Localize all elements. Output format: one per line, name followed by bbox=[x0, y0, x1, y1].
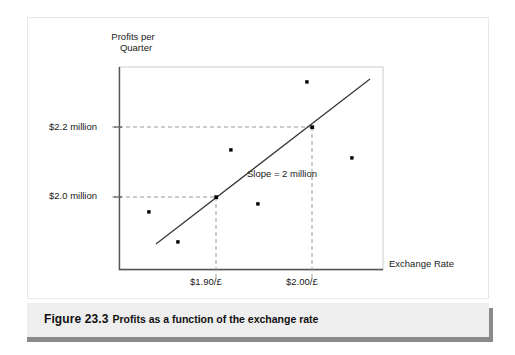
figure-caption: Figure 23.3Profits as a function of the … bbox=[44, 312, 318, 326]
data-point bbox=[229, 148, 232, 151]
x-axis-title: Exchange Rate bbox=[389, 258, 454, 269]
data-point-intersection-2-2 bbox=[310, 125, 314, 129]
y-axis-tick-label-upper: $2.2 million bbox=[49, 121, 97, 132]
y-axis-tick-label-lower: $2.0 million bbox=[49, 190, 97, 201]
chart-area: Profits per Quarter Exchange Rate $2.2 m… bbox=[0, 0, 515, 299]
y-axis-title-line2: Quarter bbox=[98, 42, 168, 53]
data-point bbox=[147, 210, 150, 213]
data-point bbox=[176, 240, 179, 243]
y-axis-title-line1: Profits per bbox=[111, 31, 154, 42]
data-point bbox=[305, 80, 308, 83]
figure-number: Figure 23.3 bbox=[44, 312, 108, 326]
x-axis-tick-label-left: $1.90/£ bbox=[190, 276, 222, 287]
y-axis-title: Profits per Quarter bbox=[98, 31, 168, 53]
data-point bbox=[256, 202, 259, 205]
figure-caption-bar: Figure 23.3Profits as a function of the … bbox=[27, 303, 489, 337]
slope-annotation: Slope = 2 million bbox=[247, 168, 317, 179]
x-axis-tick-label-right: $2.00/£ bbox=[286, 276, 318, 287]
caption-bottom-rule bbox=[27, 337, 493, 342]
caption-right-shadow bbox=[489, 308, 493, 337]
data-point-intersection-2-0 bbox=[214, 195, 218, 199]
data-point bbox=[350, 156, 353, 159]
figure-caption-text: Profits as a function of the exchange ra… bbox=[108, 313, 318, 325]
scatter-plot-svg bbox=[0, 0, 515, 299]
